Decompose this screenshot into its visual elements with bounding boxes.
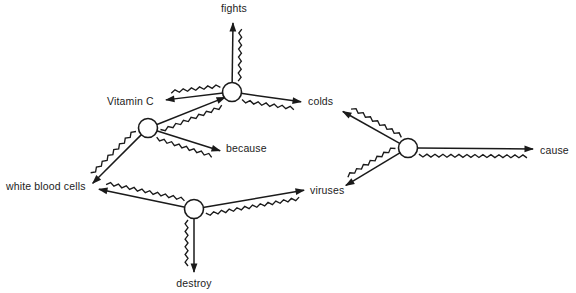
edge-top-vitaminc-squiggle [171,85,220,93]
semantic-network-svg: fightsVitamin Ccoldsbecausewhite blood c… [0,0,576,293]
edge-right-viruses-arrowhead-icon [345,178,355,186]
edge-bottom-wbc [98,183,185,208]
edge-left-wbc-shaft [93,134,142,183]
node-top[interactable] [223,83,242,102]
edge-top-colds-arrowhead-icon [292,97,302,104]
edge-right-cause-squiggle [419,154,527,158]
edge-left-wbc [91,132,142,184]
node-right[interactable] [399,139,418,158]
terminal-label-colds: colds [308,95,333,107]
terminal-label-because: because [226,142,267,154]
edge-bottom-viruses [203,188,305,215]
edge-bottom-destroy [185,218,197,273]
edge-right-colds [342,109,401,144]
edge-top-fights-shaft [232,23,233,83]
terminal-label-fights: fights [221,2,247,14]
edge-left-because [157,131,221,158]
edge-right-colds-arrowhead-icon [342,111,352,119]
terminal-label-white-blood-cells: white blood cells [5,180,86,192]
edge-top-vitaminc [165,85,223,102]
terminal-labels-layer: fightsVitamin Ccoldsbecausewhite blood c… [5,2,569,289]
edge-top-vitaminc-arrowhead-icon [165,96,175,103]
edge-right-cause [417,146,534,158]
edges-layer [91,22,534,273]
edge-top-fights-squiggle [238,29,242,81]
node-bottom[interactable] [185,200,204,219]
edge-top-fights-arrowhead-icon [229,22,236,32]
edge-right-cause-shaft [417,148,533,149]
edge-top-colds [241,93,302,110]
terminal-label-cause: cause [540,144,569,156]
edge-bottom-viruses-arrowhead-icon [295,188,305,195]
edge-bottom-viruses-squiggle [206,197,299,215]
edge-top-fights [229,22,241,83]
edge-left-because-arrowhead-icon [211,145,221,151]
edge-right-viruses [345,148,400,186]
edge-right-colds-shaft [343,111,400,143]
edge-left-top-shaft [156,97,225,124]
terminal-label-destroy: destroy [176,277,212,289]
edge-right-colds-squiggle [351,109,401,138]
terminal-label-viruses: viruses [310,184,344,196]
edge-right-cause-arrowhead-icon [524,146,534,153]
edge-top-colds-squiggle [242,100,294,110]
edge-bottom-destroy-arrowhead-icon [191,264,198,274]
edge-left-because-shaft [157,131,220,151]
terminal-label-vitamin-c: Vitamin C [107,95,154,107]
edge-left-top-squiggle [160,105,221,131]
node-left[interactable] [139,119,158,138]
edge-right-viruses-shaft [346,153,400,186]
edge-top-vitaminc-shaft [166,93,223,100]
edge-bottom-destroy-squiggle [185,220,188,266]
edge-bottom-wbc-shaft [99,189,185,207]
edge-right-viruses-squiggle [348,148,396,177]
edge-left-top [156,97,226,131]
diagram-canvas: fightsVitamin Ccoldsbecausewhite blood c… [0,0,576,293]
edge-left-wbc-squiggle [91,132,136,173]
